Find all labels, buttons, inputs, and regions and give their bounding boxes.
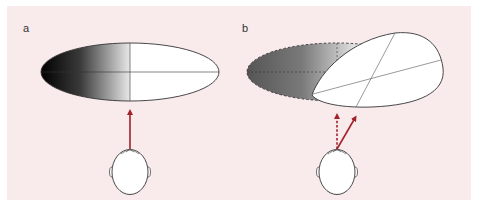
head-icon xyxy=(110,149,151,195)
panel-b: b xyxy=(242,22,443,195)
panel-a: a xyxy=(23,22,219,195)
diagram: a b xyxy=(0,0,478,215)
panel-label-b: b xyxy=(242,22,248,34)
panel-label-a: a xyxy=(23,22,30,34)
head-icon xyxy=(317,149,358,195)
shifted-gaze-arrow xyxy=(337,118,355,149)
